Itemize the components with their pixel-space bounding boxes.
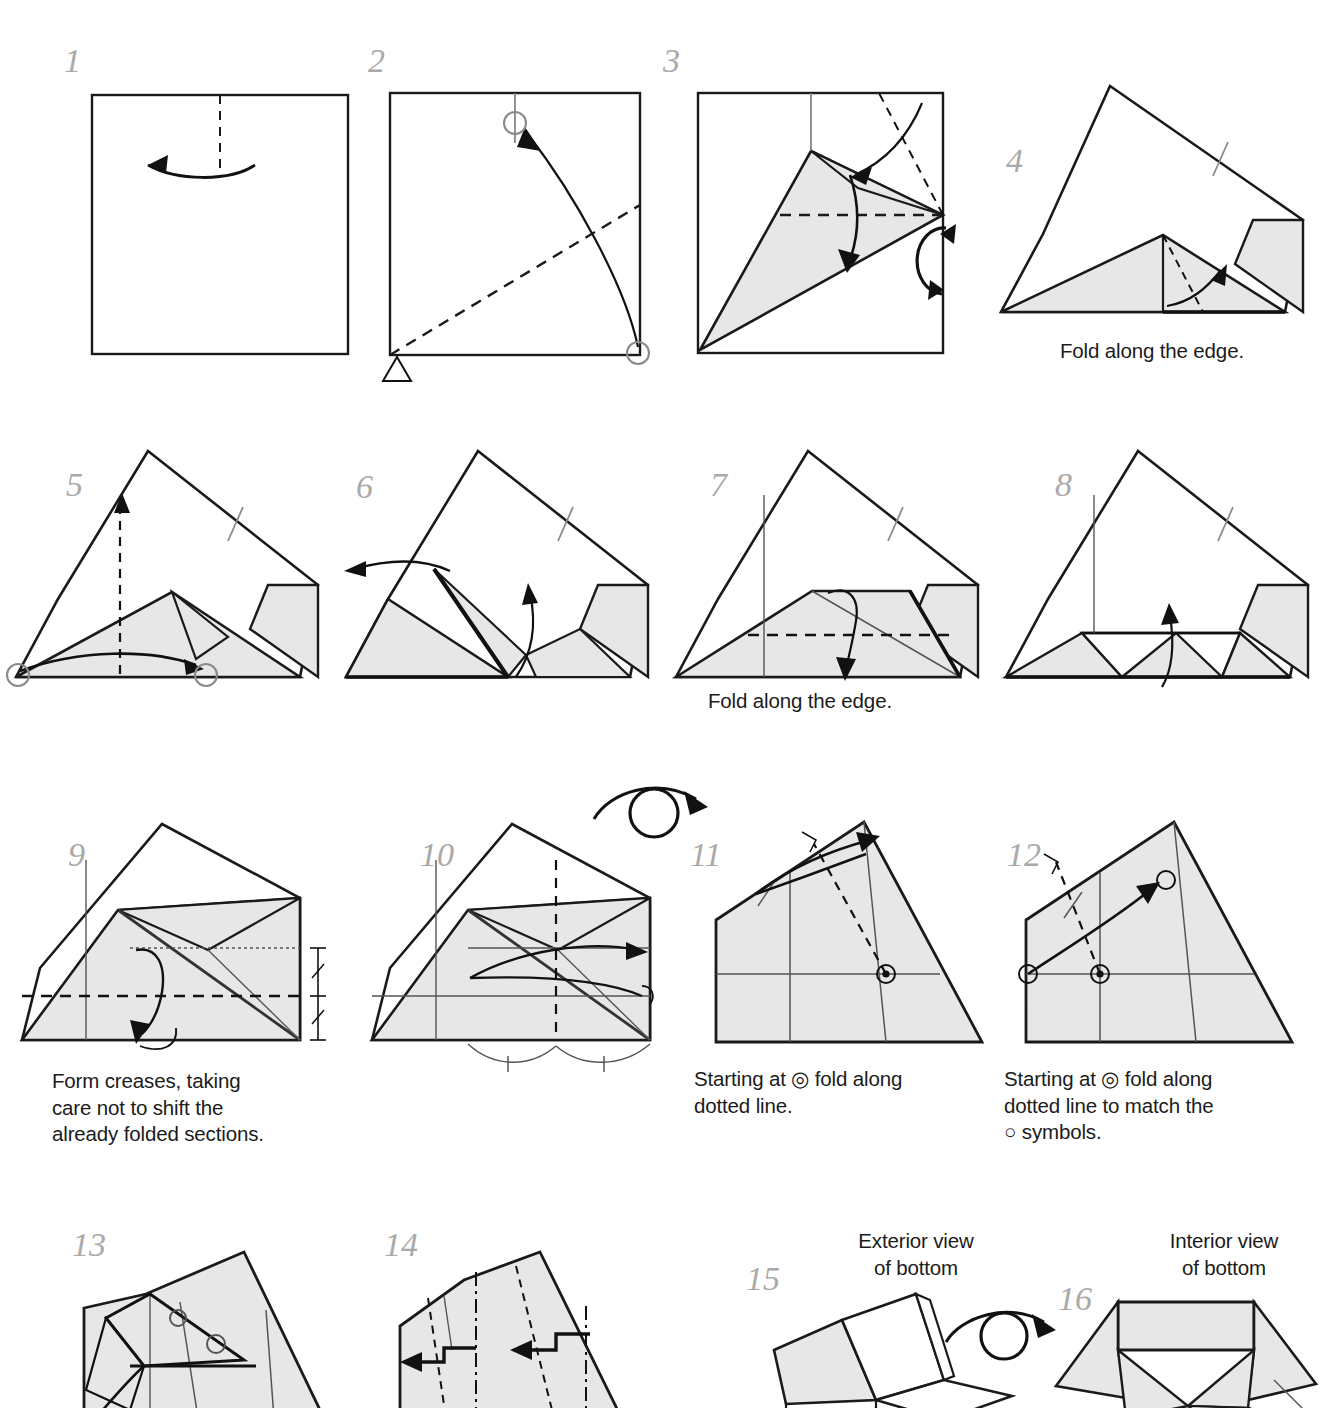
figure-step-1 xyxy=(80,85,370,375)
figure-step-8 xyxy=(990,445,1320,695)
figure-step-10 xyxy=(350,800,710,1080)
caption-step-7: Fold along the edge. xyxy=(708,688,892,715)
figure-step-16 xyxy=(1020,1288,1320,1408)
top-cropped-text xyxy=(0,0,1317,6)
figure-step-5 xyxy=(0,445,330,695)
figure-step-6 xyxy=(330,445,660,695)
figure-step-9 xyxy=(0,800,360,1060)
figure-step-11 xyxy=(690,810,1010,1060)
figure-step-14 xyxy=(340,1240,680,1405)
alignment-triangle-marker xyxy=(383,357,411,381)
figure-step-13 xyxy=(20,1240,340,1405)
label-exterior-view: Exterior view of bottom xyxy=(826,1228,1006,1281)
caption-step-11: Starting at ◎ fold along dotted line. xyxy=(694,1066,902,1119)
caption-step-4: Fold along the edge. xyxy=(1060,338,1244,365)
caption-step-9: Form creases, taking care not to shift t… xyxy=(52,1068,264,1148)
right-angle-marker xyxy=(802,832,816,852)
caption-step-12: Starting at ◎ fold along dotted line to … xyxy=(1004,1066,1214,1146)
figure-step-4 xyxy=(985,80,1305,330)
figure-step-12 xyxy=(1000,810,1323,1060)
step-number-1: 1 xyxy=(64,44,81,78)
step-number-3: 3 xyxy=(663,44,680,78)
step-number-2: 2 xyxy=(368,44,385,78)
rotate-180-icon xyxy=(898,212,988,312)
figure-step-7 xyxy=(660,445,990,695)
figure-step-2 xyxy=(375,85,675,385)
label-interior-view: Interior view of bottom xyxy=(1134,1228,1314,1281)
